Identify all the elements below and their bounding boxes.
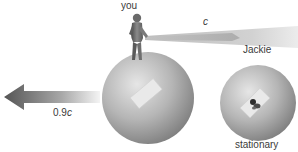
light-beam	[145, 26, 298, 48]
light-speed-label: c	[203, 17, 208, 27]
stationary-label: stationary	[235, 140, 278, 150]
velocity-arrow-left	[4, 84, 100, 110]
you-label: you	[121, 1, 137, 11]
velocity-number: 0.9	[53, 107, 67, 118]
moving-sphere	[102, 52, 194, 144]
velocity-unit: c	[67, 107, 72, 118]
jackie-label: Jackie	[243, 45, 271, 55]
velocity-label: 0.9c	[53, 108, 72, 118]
stationary-sphere	[220, 65, 296, 141]
relativity-diagram	[0, 0, 298, 152]
